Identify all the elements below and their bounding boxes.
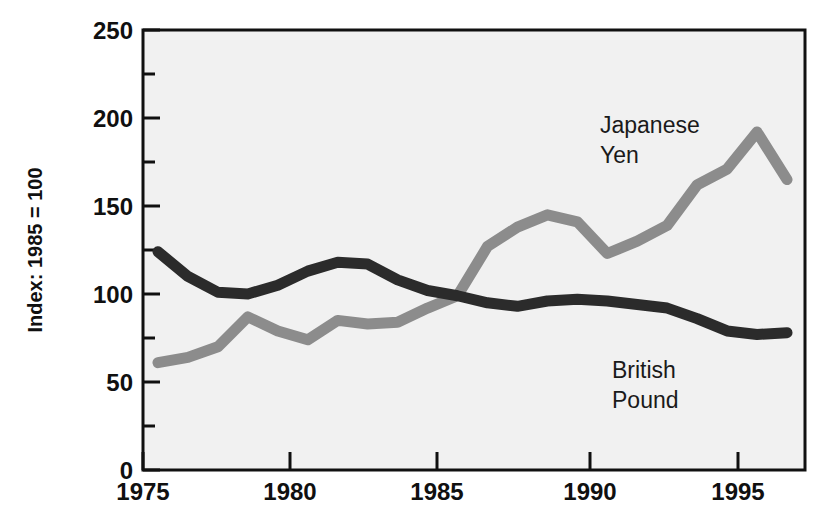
annotation-british-pound-line2: Pound [612,387,679,413]
x-tick-label-1985: 1985 [410,478,463,505]
x-tick-label-1990: 1990 [563,478,616,505]
y-tick-label-100: 100 [93,281,133,308]
annotation-japanese-yen-line2: Yen [600,142,639,168]
annotation-japanese-yen-line1: Japanese [600,112,700,138]
y-tick-label-250: 250 [93,17,133,44]
annotation-british-pound-line1: British [612,357,676,383]
y-tick-label-150: 150 [93,193,133,220]
x-tick-label-1975: 1975 [116,478,169,505]
y-tick-label-50: 50 [106,369,133,396]
chart-figure: 250 200 150 100 50 0 Index: 1985 = 100 1… [0,0,825,528]
y-tick-label-200: 200 [93,105,133,132]
x-tick-label-1995: 1995 [711,478,764,505]
plot-area-background [143,30,805,470]
y-axis-title: Index: 1985 = 100 [24,167,46,332]
x-tick-label-1980: 1980 [263,478,316,505]
exchange-rate-index-line-chart: 250 200 150 100 50 0 Index: 1985 = 100 1… [0,0,825,528]
